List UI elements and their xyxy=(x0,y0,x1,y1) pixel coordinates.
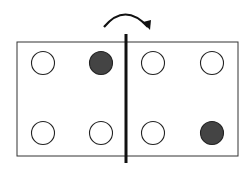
empty-hole-icon xyxy=(142,52,165,75)
filled-hole-icon xyxy=(201,122,224,145)
fold-arrow-icon xyxy=(104,15,148,28)
empty-hole-icon xyxy=(90,122,113,145)
fold-diagram xyxy=(0,0,250,172)
empty-hole-icon xyxy=(32,52,55,75)
arrowhead-icon xyxy=(143,20,151,30)
empty-hole-icon xyxy=(142,122,165,145)
empty-hole-icon xyxy=(32,122,55,145)
empty-hole-icon xyxy=(201,52,224,75)
filled-hole-icon xyxy=(90,52,113,75)
